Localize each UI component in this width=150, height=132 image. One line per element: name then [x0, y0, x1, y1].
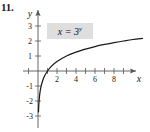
x-tick-label-6: 6: [93, 75, 97, 84]
equation-exponent: y: [79, 25, 82, 33]
y-tick-label-2: 2: [28, 37, 32, 46]
y-tick-label-3: 3: [28, 22, 32, 31]
y-axis-label: y: [27, 8, 33, 19]
y-tick-label-minus-3: -3: [26, 112, 33, 121]
x-tick-label-2: 2: [55, 75, 59, 84]
y-tick-label-1: 1: [28, 52, 32, 61]
x-axis-label: x: [136, 73, 142, 84]
y-tick-label-minus-1: -1: [26, 82, 33, 91]
equation-base: x = 3: [58, 26, 79, 37]
equation-annotation-text: x = 3y: [58, 25, 82, 37]
x-tick-label-4: 4: [74, 75, 78, 84]
equation-annotation-box: x = 3y: [47, 23, 93, 39]
x-axis: [23, 68, 136, 73]
y-tick-label-minus-2: -2: [26, 97, 33, 106]
coordinate-plot: 2 4 6 8 3 2 1 -1 -2 -3 y x: [0, 0, 150, 132]
exponential-graph-figure: 11.: [0, 0, 150, 132]
x-tick-label-8: 8: [112, 75, 116, 84]
